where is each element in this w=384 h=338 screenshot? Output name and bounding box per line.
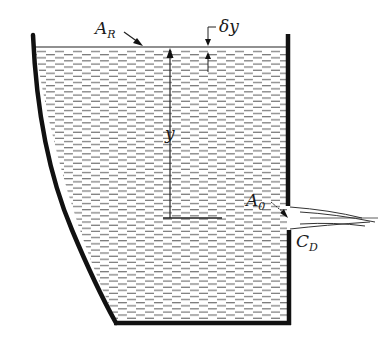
water-body bbox=[30, 50, 290, 322]
label-height: y bbox=[165, 125, 175, 142]
outlet-jet bbox=[290, 207, 378, 229]
area-ar-arrow bbox=[124, 32, 143, 46]
label-orifice-area: A0 bbox=[246, 192, 265, 212]
label-height-increment: δy bbox=[219, 18, 239, 35]
label-reservoir-area: AR bbox=[95, 20, 116, 40]
tank-diagram bbox=[0, 0, 384, 338]
label-discharge-coefficient: CD bbox=[296, 233, 318, 253]
